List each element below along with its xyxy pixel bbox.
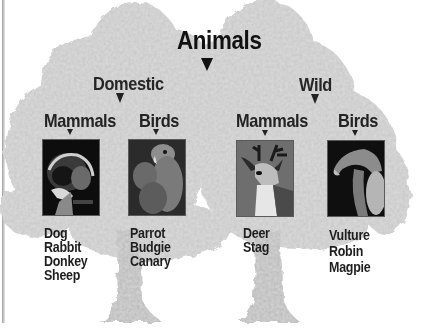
deer-photo [236, 140, 294, 217]
arrow-down-icon [352, 130, 358, 136]
arrow-down-icon [116, 93, 124, 103]
list-item: Sheep [44, 268, 88, 282]
list-item: Parrot [130, 226, 171, 240]
arrow-down-icon [262, 130, 268, 136]
diagram-title: Animals [177, 27, 262, 53]
list-item: Dog [44, 226, 88, 240]
list-item: Vulture [329, 227, 370, 243]
subgroup-label-wild-birds: Birds [338, 111, 378, 130]
subgroup-label-wild-mammals: Mammals [236, 111, 308, 130]
list-item: Rabbit [44, 240, 88, 254]
list-item: Robin [329, 243, 370, 259]
group-label-domestic: Domestic [93, 74, 164, 93]
list-domestic-birds: Parrot Budgie Canary [130, 226, 171, 268]
list-item: Deer [243, 226, 270, 240]
list-item: Stag [243, 240, 270, 254]
parrot-photo [128, 139, 186, 216]
subgroup-label-domestic-mammals: Mammals [44, 111, 116, 130]
list-domestic-mammals: Dog Rabbit Donkey Sheep [44, 226, 88, 282]
list-item: Budgie [130, 240, 171, 254]
arrow-down-icon [311, 94, 319, 104]
list-wild-birds: Vulture Robin Magpie [329, 227, 370, 275]
list-item: Canary [130, 254, 171, 268]
group-label-wild: Wild [299, 75, 332, 94]
arrow-down-icon [153, 129, 159, 135]
list-item: Magpie [329, 259, 370, 275]
dog-photo [42, 139, 100, 216]
subgroup-label-domestic-birds: Birds [139, 111, 179, 130]
arrow-down-icon [201, 58, 213, 71]
list-item: Donkey [44, 254, 88, 268]
vulture-photo [327, 140, 385, 217]
list-wild-mammals: Deer Stag [243, 226, 270, 254]
arrow-down-icon [67, 129, 73, 135]
